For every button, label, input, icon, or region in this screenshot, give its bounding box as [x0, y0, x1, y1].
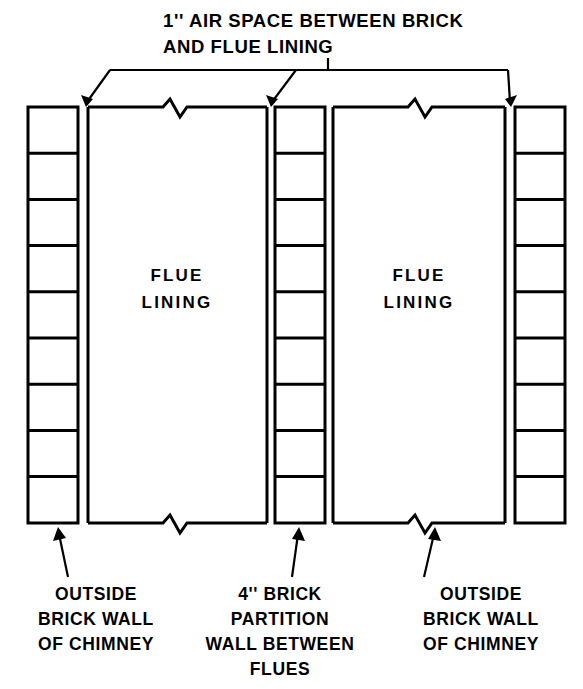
bottom-leader-lines	[59, 534, 434, 577]
bottom-right-label-line-2: BRICK WALL	[423, 609, 539, 629]
outside-brick-wall-left-column	[28, 107, 78, 523]
diagram-canvas: 1'' AIR SPACE BETWEEN BRICK AND FLUE LIN…	[0, 0, 583, 689]
outside-brick-wall-right-column	[515, 107, 565, 523]
flue-lining-left-label-line-2: LINING	[142, 293, 213, 312]
top-leader-arrowheads	[81, 95, 517, 107]
flue-lining-left-label-line-1: FLUE	[150, 266, 203, 285]
brick-column-outline-left	[28, 107, 78, 523]
top-callout-line-1: 1'' AIR SPACE BETWEEN BRICK	[163, 10, 464, 31]
top-callout-line-2: AND FLUE LINING	[163, 36, 333, 57]
bottom-left-label-line-3: OF CHIMNEY	[38, 634, 154, 654]
bottom-center-label-line-1: 4'' BRICK	[238, 584, 322, 604]
arrowhead-air-gap-right	[505, 95, 517, 107]
bottom-left-label-line-1: OUTSIDE	[55, 584, 137, 604]
flue-lining-left-outline	[88, 99, 267, 533]
leader-bottom-right	[424, 534, 434, 577]
arrowhead-brick-partition-wall	[292, 527, 305, 541]
flue-lining-right-outline	[333, 99, 505, 533]
leader-branch-middle	[272, 70, 296, 102]
chimney-section-diagram: 1'' AIR SPACE BETWEEN BRICK AND FLUE LIN…	[0, 0, 583, 689]
brick-column-outline-right	[515, 107, 565, 523]
leader-branch-right	[508, 70, 510, 102]
bottom-right-label: OUTSIDE BRICK WALL OF CHIMNEY	[423, 584, 539, 654]
flue-lining-right-label-line-2: LINING	[384, 293, 455, 312]
arrowhead-outside-brick-wall-left	[53, 527, 66, 541]
flue-right-top-edge-with-break	[333, 99, 505, 117]
bottom-center-label-line-4: FLUES	[250, 659, 310, 679]
brick-column-outline-middle	[275, 107, 325, 523]
leader-bottom-center	[292, 534, 298, 577]
bottom-left-label: OUTSIDE BRICK WALL OF CHIMNEY	[38, 584, 154, 654]
bottom-left-label-line-2: BRICK WALL	[38, 609, 154, 629]
bottom-center-label: 4'' BRICK PARTITION WALL BETWEEN FLUES	[206, 584, 355, 679]
bottom-center-label-line-3: WALL BETWEEN	[206, 634, 355, 654]
flue-right-bottom-edge-with-break	[333, 515, 505, 533]
bottom-center-label-line-2: PARTITION	[231, 609, 329, 629]
leader-bottom-left	[59, 534, 68, 577]
top-leader-lines	[87, 58, 510, 102]
flue-left-top-edge-with-break	[88, 99, 267, 117]
bottom-right-label-line-3: OF CHIMNEY	[423, 634, 539, 654]
bottom-right-label-line-1: OUTSIDE	[440, 584, 522, 604]
bottom-leader-arrowheads	[53, 527, 441, 541]
arrowhead-outside-brick-wall-right	[428, 527, 441, 541]
flue-lining-right-label-line-1: FLUE	[392, 266, 445, 285]
brick-partition-wall-column	[275, 107, 325, 523]
flue-left-bottom-edge-with-break	[88, 515, 267, 533]
leader-branch-left	[87, 70, 110, 102]
top-callout-label: 1'' AIR SPACE BETWEEN BRICK AND FLUE LIN…	[163, 10, 464, 57]
